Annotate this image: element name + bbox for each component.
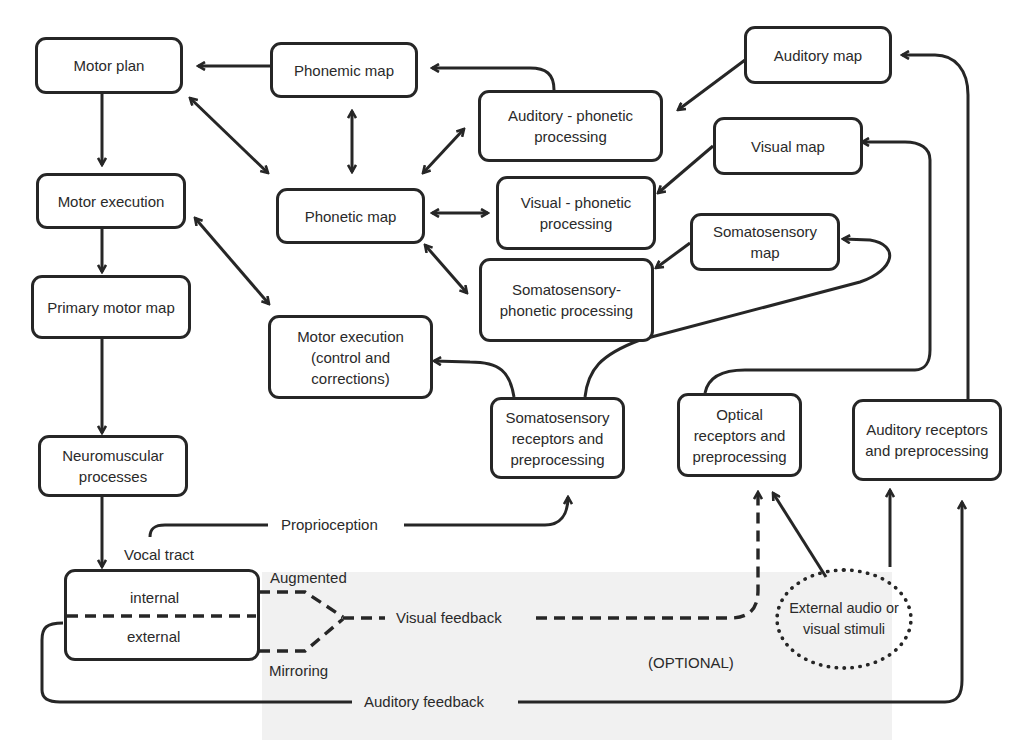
node-auditory-phonetic: Auditory - phonetic processing xyxy=(478,90,663,162)
node-neuromuscular: Neuromuscular processes xyxy=(38,435,188,497)
node-vocal-tract xyxy=(64,569,260,661)
node-optical-receptors: Optical receptors and preprocessing xyxy=(677,393,802,477)
node-external-stimuli: External audio or visual stimuli xyxy=(775,568,913,670)
node-visual-phonetic: Visual - phonetic processing xyxy=(496,176,656,250)
label-mirroring: Mirroring xyxy=(269,662,328,680)
node-phonetic-map: Phonetic map xyxy=(276,188,425,244)
node-motor-plan: Motor plan xyxy=(35,37,183,94)
label-auditory-feedback: Auditory feedback xyxy=(364,693,484,711)
vocal-tract-internal: internal xyxy=(130,589,179,606)
node-auditory-map: Auditory map xyxy=(744,26,892,84)
label-augmented: Augmented xyxy=(270,569,347,587)
label-vocal-tract: Vocal tract xyxy=(124,546,194,564)
label-proprioception: Proprioception xyxy=(281,516,378,534)
node-somatosensory-map: Somatosensory map xyxy=(690,213,840,271)
label-optional: (OPTIONAL) xyxy=(648,654,734,672)
vocal-tract-external: external xyxy=(127,628,180,645)
arrow-audphon-to-phonemic xyxy=(432,68,554,90)
node-visual-map: Visual map xyxy=(713,117,863,175)
arrow-audmap-to-audphon xyxy=(678,60,745,110)
node-auditory-receptors: Auditory receptors and preprocessing xyxy=(852,399,1002,481)
node-somatosensory-phonetic: Somatosensory- phonetic processing xyxy=(479,258,654,342)
node-motor-execution: Motor execution xyxy=(36,173,186,229)
node-phonemic-map: Phonemic map xyxy=(270,42,418,98)
node-somatosensory-receptors: Somatosensory receptors and preprocessin… xyxy=(490,397,625,479)
label-visual-feedback: Visual feedback xyxy=(396,609,502,627)
node-primary-motor-map: Primary motor map xyxy=(31,275,191,339)
node-motor-execution-control: Motor execution (control and corrections… xyxy=(268,315,433,399)
